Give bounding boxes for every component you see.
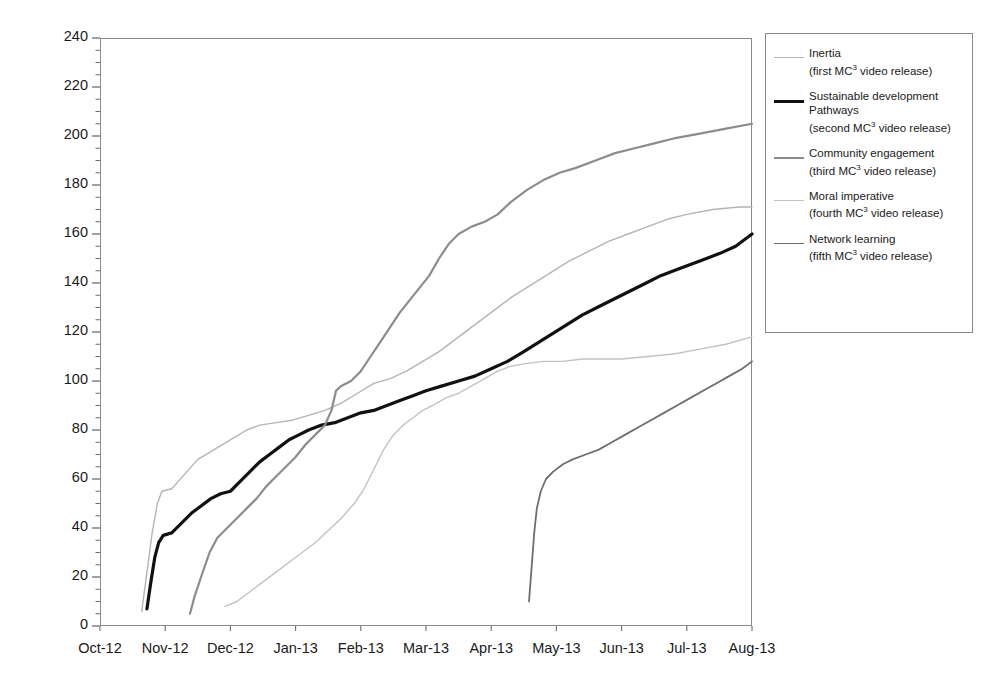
legend-item-4[interactable]: Network learning(fifth MC3 video release… <box>774 232 966 264</box>
y-tick-label: 160 <box>40 224 88 240</box>
legend-swatch-icon <box>774 235 804 251</box>
chart-page: Video views (cumulative values) 02040608… <box>0 0 985 699</box>
legend-label: Community engagement(third MC3 video rel… <box>809 146 936 178</box>
series-line-2 <box>190 124 752 614</box>
y-tick-label: 180 <box>40 175 88 191</box>
legend-label: Sustainable development Pathways(second … <box>809 89 966 135</box>
x-tick-label: Aug-13 <box>712 640 792 656</box>
legend-swatch-icon <box>774 149 804 165</box>
y-tick-label: 120 <box>40 322 88 338</box>
series-line-4 <box>529 361 752 601</box>
y-tick-label: 20 <box>40 567 88 583</box>
legend-item-2[interactable]: Community engagement(third MC3 video rel… <box>774 146 966 178</box>
series-line-0 <box>142 207 752 611</box>
legend: Inertia(first MC3 video release)Sustaina… <box>765 33 973 333</box>
legend-swatch-icon <box>774 192 804 208</box>
y-tick-label: 220 <box>40 77 88 93</box>
y-tick-label: 0 <box>40 616 88 632</box>
y-tick-label: 240 <box>40 28 88 44</box>
y-tick-label: 140 <box>40 273 88 289</box>
axis-ticks <box>92 38 752 631</box>
y-tick-label: 60 <box>40 469 88 485</box>
y-tick-label: 100 <box>40 371 88 387</box>
legend-label: Network learning(fifth MC3 video release… <box>809 232 932 264</box>
y-tick-label: 40 <box>40 518 88 534</box>
y-tick-label: 200 <box>40 126 88 142</box>
legend-swatch-icon <box>774 49 804 65</box>
legend-label: Moral imperative(fourth MC3 video releas… <box>809 189 943 221</box>
legend-label: Inertia(first MC3 video release) <box>809 46 932 78</box>
legend-swatch-icon <box>774 92 804 108</box>
legend-item-3[interactable]: Moral imperative(fourth MC3 video releas… <box>774 189 966 221</box>
legend-item-1[interactable]: Sustainable development Pathways(second … <box>774 89 966 135</box>
series-line-3 <box>225 337 752 607</box>
series-line-1 <box>147 234 752 609</box>
legend-item-0[interactable]: Inertia(first MC3 video release) <box>774 46 966 78</box>
y-tick-label: 80 <box>40 420 88 436</box>
